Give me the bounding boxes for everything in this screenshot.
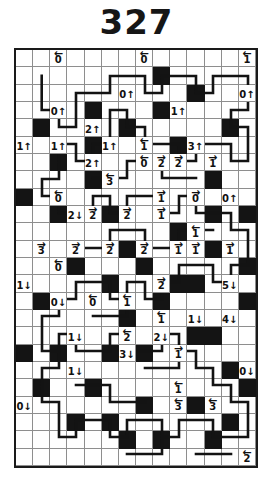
grid-cell[interactable] (85, 258, 102, 275)
grid-cell[interactable] (102, 431, 119, 448)
grid-cell[interactable] (153, 119, 170, 136)
grid-cell[interactable] (205, 293, 222, 310)
grid-cell[interactable] (153, 241, 170, 258)
grid-cell[interactable] (170, 258, 187, 275)
clue-cell[interactable]: 0↓ (50, 293, 67, 310)
grid-cell[interactable] (136, 327, 153, 344)
grid-cell[interactable] (67, 119, 84, 136)
clue-cell[interactable]: 0↓ (16, 397, 33, 414)
clue-cell[interactable]: 0↑ (239, 85, 256, 102)
grid-cell[interactable] (136, 310, 153, 327)
grid-cell[interactable] (170, 119, 187, 136)
grid-cell[interactable] (136, 431, 153, 448)
grid-cell[interactable] (222, 154, 239, 171)
grid-cell[interactable] (239, 154, 256, 171)
grid-cell[interactable] (205, 102, 222, 119)
grid-cell[interactable] (205, 223, 222, 240)
grid-cell[interactable] (119, 362, 136, 379)
grid-cell[interactable] (33, 258, 50, 275)
grid-cell[interactable] (153, 449, 170, 466)
grid-cell[interactable] (33, 345, 50, 362)
clue-cell[interactable]: →2 (136, 241, 153, 258)
grid-cell[interactable] (102, 310, 119, 327)
grid-cell[interactable] (187, 119, 204, 136)
clue-cell[interactable]: 2↑ (85, 119, 102, 136)
grid-cell[interactable] (222, 206, 239, 223)
grid-cell[interactable] (205, 119, 222, 136)
grid-cell[interactable] (205, 414, 222, 431)
clue-cell[interactable]: 0↓ (239, 362, 256, 379)
grid-cell[interactable] (222, 67, 239, 84)
grid-cell[interactable] (222, 258, 239, 275)
grid-cell[interactable] (33, 67, 50, 84)
grid-cell[interactable] (170, 50, 187, 67)
grid-cell[interactable] (187, 50, 204, 67)
clue-cell[interactable]: 1↑ (50, 137, 67, 154)
grid-cell[interactable] (67, 102, 84, 119)
grid-cell[interactable] (170, 293, 187, 310)
grid-cell[interactable] (187, 154, 204, 171)
grid-cell[interactable] (67, 189, 84, 206)
clue-cell[interactable]: ←3 (205, 397, 222, 414)
grid-cell[interactable] (102, 119, 119, 136)
clue-cell[interactable]: 1↓ (16, 275, 33, 292)
grid-cell[interactable] (170, 414, 187, 431)
grid-cell[interactable] (239, 275, 256, 292)
grid-cell[interactable] (33, 171, 50, 188)
grid-cell[interactable] (205, 362, 222, 379)
clue-cell[interactable]: ←0 (136, 154, 153, 171)
grid-cell[interactable] (50, 449, 67, 466)
grid-cell[interactable] (16, 241, 33, 258)
grid-cell[interactable] (67, 275, 84, 292)
grid-cell[interactable] (136, 449, 153, 466)
grid-cell[interactable] (136, 362, 153, 379)
grid-cell[interactable] (16, 50, 33, 67)
clue-cell[interactable]: →3 (33, 241, 50, 258)
grid-cell[interactable] (85, 327, 102, 344)
grid-cell[interactable] (102, 50, 119, 67)
grid-cell[interactable] (67, 431, 84, 448)
grid-cell[interactable] (187, 258, 204, 275)
grid-cell[interactable] (16, 327, 33, 344)
grid-cell[interactable] (50, 85, 67, 102)
grid-cell[interactable] (16, 171, 33, 188)
grid-cell[interactable] (33, 327, 50, 344)
grid-cell[interactable] (33, 206, 50, 223)
clue-cell[interactable]: 5↓ (222, 275, 239, 292)
grid-cell[interactable] (170, 171, 187, 188)
grid-cell[interactable] (239, 241, 256, 258)
grid-cell[interactable] (170, 431, 187, 448)
grid-cell[interactable] (85, 85, 102, 102)
grid-cell[interactable] (119, 449, 136, 466)
grid-cell[interactable] (33, 102, 50, 119)
clue-cell[interactable]: ←1 (119, 293, 136, 310)
grid-cell[interactable] (50, 275, 67, 292)
clue-cell[interactable]: ←0 (50, 50, 67, 67)
grid-cell[interactable] (67, 171, 84, 188)
grid-cell[interactable] (205, 449, 222, 466)
grid-cell[interactable] (170, 189, 187, 206)
clue-cell[interactable]: →1 (153, 206, 170, 223)
grid-cell[interactable] (16, 431, 33, 448)
grid-cell[interactable] (119, 137, 136, 154)
grid-cell[interactable] (205, 275, 222, 292)
clue-cell[interactable]: 0↑ (222, 189, 239, 206)
grid-cell[interactable] (119, 397, 136, 414)
grid-cell[interactable] (222, 137, 239, 154)
grid-cell[interactable] (222, 171, 239, 188)
clue-cell[interactable]: 2↓ (67, 206, 84, 223)
clue-cell[interactable]: 1↑ (170, 102, 187, 119)
grid-cell[interactable] (50, 414, 67, 431)
grid-cell[interactable] (33, 310, 50, 327)
clue-cell[interactable]: ←0 (50, 189, 67, 206)
grid-cell[interactable] (136, 85, 153, 102)
grid-cell[interactable] (85, 67, 102, 84)
clue-cell[interactable]: ←3 (102, 171, 119, 188)
grid-cell[interactable] (67, 137, 84, 154)
grid-cell[interactable] (102, 67, 119, 84)
grid-cell[interactable] (102, 327, 119, 344)
grid-cell[interactable] (119, 379, 136, 396)
clue-cell[interactable]: 1↑ (102, 137, 119, 154)
grid-cell[interactable] (16, 102, 33, 119)
grid-cell[interactable] (187, 414, 204, 431)
